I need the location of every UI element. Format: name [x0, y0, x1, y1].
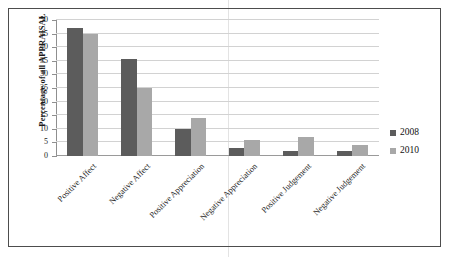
bars-layer	[56, 20, 379, 156]
bar-group	[56, 20, 110, 156]
y-tick-label-15: 15	[40, 111, 48, 119]
y-tick-label-45: 45	[40, 30, 48, 38]
bar-group	[271, 20, 325, 156]
x-axis-label-2: Positive Appreciation	[147, 161, 206, 220]
legend-swatch-icon	[390, 148, 396, 154]
y-tick-label-30: 30	[40, 70, 48, 78]
y-axis-tick-labels: 50454035302520151050	[9, 9, 56, 157]
bar-group	[110, 20, 164, 156]
x-axis-label-1: Negative Affect	[107, 161, 152, 206]
bar	[137, 88, 153, 156]
bar	[244, 140, 260, 156]
bar	[191, 118, 207, 156]
y-tick-label-40: 40	[40, 43, 48, 51]
bar	[352, 145, 368, 156]
chart-legend: 20082010	[390, 125, 446, 161]
y-tick-label-25: 25	[40, 84, 48, 92]
x-axis-label-0: Positive Affect	[55, 161, 98, 204]
x-axis-label-4: Positive Judgement	[259, 161, 313, 215]
chart-page: Percentage of all APPRAISAL 504540353025…	[0, 0, 449, 257]
y-tick-label-35: 35	[40, 57, 48, 65]
y-tick-label-10: 10	[40, 125, 48, 133]
legend-label: 2008	[400, 128, 419, 138]
plot-area	[56, 20, 379, 156]
legend-label: 2010	[400, 146, 419, 156]
bar-group	[218, 20, 272, 156]
x-axis-label-3: Negative Appreciation	[198, 161, 259, 222]
y-tick-label-20: 20	[40, 98, 48, 106]
bar	[229, 148, 245, 156]
bar	[283, 151, 299, 156]
y-tick-label-50: 50	[40, 16, 48, 24]
legend-item: 2010	[390, 143, 446, 158]
y-tick-label-5: 5	[44, 138, 48, 146]
chart-frame: Percentage of all APPRAISAL 504540353025…	[8, 8, 441, 247]
bar	[337, 151, 353, 156]
bar	[67, 28, 83, 156]
bar	[121, 59, 137, 156]
y-tick-label-0: 0	[44, 152, 48, 160]
bar	[298, 137, 314, 156]
bar	[83, 34, 99, 156]
x-axis-category-labels: Positive AffectNegative AffectPositive A…	[56, 157, 379, 249]
legend-item: 2008	[390, 125, 446, 140]
legend-swatch-icon	[390, 130, 396, 136]
bar-group	[164, 20, 218, 156]
bar-group	[325, 20, 379, 156]
bar	[175, 129, 191, 156]
x-axis-label-5: Negative Judgement	[311, 161, 367, 217]
